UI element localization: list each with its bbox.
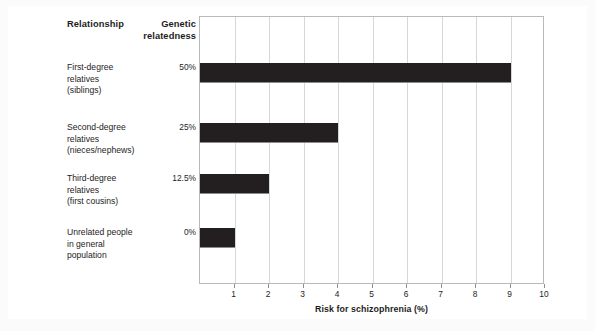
row-relatedness-third-degree: 12.5% <box>136 173 196 185</box>
gridline <box>373 17 374 283</box>
row-relatedness-second-degree: 25% <box>136 122 196 134</box>
x-tick <box>544 284 545 288</box>
gridline <box>269 17 270 283</box>
x-tick <box>510 284 511 288</box>
x-tick <box>268 284 269 288</box>
row-label-line2: in general <box>67 239 153 251</box>
gridline <box>304 17 305 283</box>
x-tick <box>234 284 235 288</box>
x-tick <box>372 284 373 288</box>
bar <box>200 174 269 194</box>
column-header-genetic-line1: Genetic <box>122 19 196 31</box>
gridline <box>511 17 512 283</box>
x-tick <box>337 284 338 288</box>
chart-figure: Relationship Genetic relatedness First-d… <box>0 0 595 331</box>
row-label-line3: (nieces/nephews) <box>67 145 153 157</box>
x-tick <box>303 284 304 288</box>
row-relatedness-unrelated: 0% <box>136 227 196 239</box>
x-tick-label: 10 <box>529 289 559 299</box>
row-label-line3: (siblings) <box>67 85 153 97</box>
x-tick-label: 9 <box>495 289 525 299</box>
x-axis-title: Risk for schizophrenia (%) <box>199 304 544 314</box>
x-tick <box>406 284 407 288</box>
x-tick-label: 3 <box>288 289 318 299</box>
row-label-line2: relatives <box>67 185 153 197</box>
category-label-column: Relationship Genetic relatedness First-d… <box>8 6 199 319</box>
bar <box>200 123 338 143</box>
gridline <box>476 17 477 283</box>
x-tick-label: 2 <box>253 289 283 299</box>
x-tick-label: 6 <box>391 289 421 299</box>
bar <box>200 63 511 83</box>
bar <box>200 228 235 248</box>
column-header-relationship: Relationship <box>67 19 124 31</box>
row-label-line2: relatives <box>67 74 153 86</box>
x-tick-label: 4 <box>322 289 352 299</box>
gridline <box>442 17 443 283</box>
x-tick-label: 5 <box>357 289 387 299</box>
x-tick <box>475 284 476 288</box>
column-header-genetic-line2: relatedness <box>122 31 196 43</box>
column-header-genetic-relatedness: Genetic relatedness <box>122 19 196 42</box>
x-tick-label: 7 <box>426 289 456 299</box>
gridline <box>407 17 408 283</box>
x-tick-label: 8 <box>460 289 490 299</box>
row-label-line3: population <box>67 250 153 262</box>
plot-area <box>199 16 544 284</box>
x-tick <box>441 284 442 288</box>
gridline <box>235 17 236 283</box>
chart-card: Relationship Genetic relatedness First-d… <box>8 6 587 319</box>
row-relatedness-first-degree: 50% <box>136 62 196 74</box>
row-label-line2: relatives <box>67 134 153 146</box>
x-tick-label: 1 <box>219 289 249 299</box>
gridline <box>338 17 339 283</box>
row-label-line3: (first cousins) <box>67 196 153 208</box>
